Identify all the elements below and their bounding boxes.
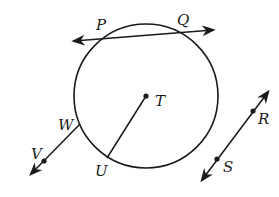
label-r: R <box>257 110 269 128</box>
point-s <box>214 156 219 161</box>
label-q: Q <box>177 11 189 29</box>
geometry-diagram: P Q T W V U R S <box>0 0 279 197</box>
point-v <box>41 158 46 163</box>
secant-line-pq <box>74 30 213 41</box>
label-u: U <box>95 162 109 180</box>
label-s: S <box>223 158 233 176</box>
line-rs <box>202 92 268 180</box>
label-w: W <box>58 116 75 134</box>
point-r <box>250 108 255 113</box>
label-p: P <box>95 16 107 34</box>
radius-tu <box>107 96 146 158</box>
point-t <box>143 93 148 98</box>
label-t: T <box>155 92 166 110</box>
